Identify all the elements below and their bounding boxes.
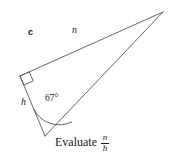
- fraction-n-over-h: n h: [101, 133, 109, 154]
- angle-label-67: 67°: [45, 94, 58, 104]
- side-label-h: h: [21, 97, 26, 107]
- triangle-side-n: [20, 12, 163, 76]
- fraction-numerator: n: [102, 133, 109, 142]
- triangle-side-hypotenuse: [45, 12, 163, 136]
- problem-part-label: c: [28, 28, 33, 37]
- fraction-denominator: h: [102, 144, 109, 153]
- geometry-figure: c n h 67° Evaluate n h: [0, 0, 171, 156]
- caption-text: Evaluate: [55, 135, 97, 150]
- side-label-n: n: [72, 25, 77, 35]
- right-angle-marker-icon: [20, 72, 33, 85]
- caption: Evaluate n h: [55, 132, 109, 153]
